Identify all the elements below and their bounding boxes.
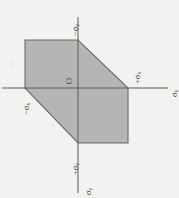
paper-speck [12,63,14,65]
label-negative-sigma-x: −σₓ [22,103,31,115]
label-positive-sigma-x: +σₓ [133,72,142,84]
label-negative-sigma-y: −σᵧ [71,24,80,36]
label-sigma-x-axis: σₓ [170,90,179,97]
figure-canvas: O −σᵧ +σₓ σₓ −σₓ +σᵧ σᵧ [0,0,179,198]
paper-speck [52,124,54,126]
yield-locus-figure [0,0,179,198]
yield-locus-polygon [25,40,128,143]
origin-label: O [64,76,74,86]
label-sigma-y-axis: σᵧ [84,188,93,195]
label-positive-sigma-y: +σᵧ [71,163,80,175]
